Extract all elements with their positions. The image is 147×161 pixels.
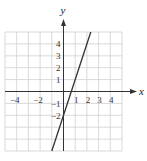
y-tick-label: 4 <box>56 39 61 49</box>
y-tick-label: 2 <box>56 63 61 73</box>
x-tick-label: 3 <box>97 95 102 105</box>
x-tick-label: −2 <box>33 95 43 105</box>
x-axis-arrow-icon <box>130 89 137 94</box>
x-tick-label: −4 <box>10 95 20 105</box>
y-tick-label: 3 <box>56 51 61 61</box>
y-tick-label: −2 <box>51 111 61 121</box>
x-tick-label: 4 <box>109 95 114 105</box>
y-axis-arrow-icon <box>61 19 66 26</box>
x-tick-label: 1 <box>74 95 79 105</box>
axes: x y <box>5 4 144 151</box>
x-axis-label: x <box>138 85 144 97</box>
y-tick-label: 1 <box>56 75 61 85</box>
coordinate-plane: x y −4−212344321−1−2 <box>0 0 147 161</box>
y-tick-label: −1 <box>51 99 61 109</box>
x-tick-label: 2 <box>86 95 91 105</box>
y-axis-label: y <box>60 4 66 16</box>
